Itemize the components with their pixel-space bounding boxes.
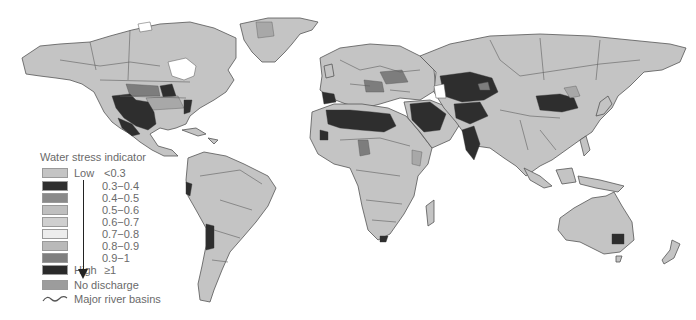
south-africa-region	[380, 236, 388, 242]
greenland-region	[256, 22, 274, 38]
legend-swatch	[42, 193, 68, 203]
southeast-asia-islands	[524, 168, 624, 192]
legend-range-label: 0.7−0.8	[102, 229, 139, 240]
caribbean-islands	[182, 128, 218, 144]
great-plains-region	[126, 84, 160, 96]
horn-of-africa-region	[412, 150, 422, 166]
europe	[320, 44, 436, 108]
legend-swatch-high	[42, 265, 68, 275]
legend-swatch	[42, 181, 68, 191]
tasmania	[616, 256, 622, 262]
legend-swatch	[42, 217, 68, 227]
south-america	[186, 152, 276, 302]
legend-range-label: 0.8−0.9	[102, 241, 139, 252]
legend-title: Water stress indicator	[40, 151, 146, 163]
wavy-line-icon	[42, 294, 70, 304]
madagascar	[426, 200, 434, 226]
legend-swatch	[42, 253, 68, 263]
legend-swatch-no-discharge	[42, 280, 68, 290]
legend-range-label: 0.4−0.5	[102, 193, 139, 204]
legend-swatch	[42, 241, 68, 251]
legend-swatch	[42, 205, 68, 215]
west-africa-region	[320, 130, 328, 140]
australia	[558, 192, 634, 254]
legend-swatch	[42, 229, 68, 239]
legend-range-label: 0.3−0.4	[102, 181, 139, 192]
philippines	[580, 136, 590, 156]
new-zealand	[662, 240, 680, 264]
legend-range-label: 0.6−0.7	[102, 217, 139, 228]
river-basins-label: Major river basins	[74, 294, 161, 305]
water-stress-map-figure: Water stress indicator Low <0.3 0.3−0.4 …	[0, 0, 696, 320]
british-isles	[324, 64, 334, 78]
arrow-down-icon	[78, 269, 88, 279]
atacama-region	[206, 224, 214, 250]
legend-range-label: 0.5−0.6	[102, 205, 139, 216]
legend-low-label: Low	[74, 168, 94, 179]
legend-swatch-low	[42, 168, 68, 178]
caspian-sea	[434, 84, 446, 98]
chad-region	[358, 140, 370, 156]
stress-arrow-icon	[83, 180, 84, 272]
legend: Water stress indicator Low <0.3 0.3−0.4 …	[40, 151, 190, 320]
no-discharge-label: No discharge	[74, 280, 139, 291]
arctic-inlet	[138, 22, 152, 32]
legend-range-label: ≥1	[104, 265, 116, 276]
spain-region	[322, 92, 336, 104]
greenland	[240, 18, 318, 62]
legend-range-label: 0.9−1	[102, 253, 130, 264]
murray-darling-region	[612, 234, 624, 244]
legend-range-label: <0.3	[104, 168, 126, 179]
